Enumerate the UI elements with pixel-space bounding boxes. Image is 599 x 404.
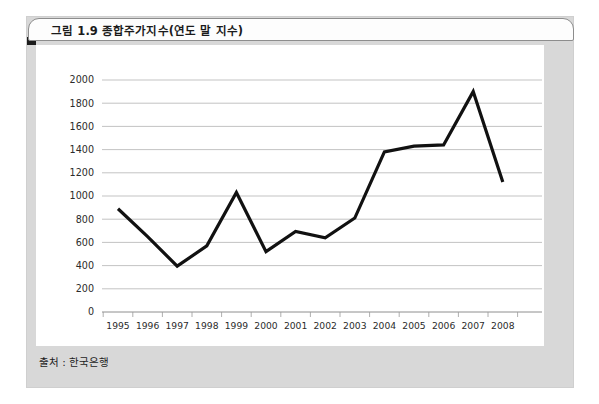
y-tick-label: 1000 xyxy=(70,190,94,201)
y-axis-tick-labels: 0200400600800100012001400160018002000 xyxy=(70,74,94,317)
y-tick-label: 1200 xyxy=(70,167,94,178)
y-tick-label: 0 xyxy=(88,306,94,317)
y-tick-label: 1600 xyxy=(70,121,94,132)
gridline-group xyxy=(102,80,542,312)
y-tick-label: 400 xyxy=(76,260,94,271)
x-tick-label: 1998 xyxy=(195,320,219,331)
x-tick-label: 1999 xyxy=(225,320,249,331)
x-tick-label: 2003 xyxy=(343,320,367,331)
x-tick-label: 1996 xyxy=(136,320,160,331)
x-tick-label: 2001 xyxy=(284,320,307,331)
line-chart: 0200400600800100012001400160018002000 19… xyxy=(36,45,544,346)
y-tick-label: 600 xyxy=(76,237,94,248)
y-tick-label: 800 xyxy=(76,214,94,225)
figure-page: 그림 1.9 종합주가지수(연도 말 지수) 02004006008001000… xyxy=(0,0,599,404)
y-tick-label: 2000 xyxy=(70,74,94,85)
x-tick-label: 2004 xyxy=(373,320,397,331)
figure-title: 그림 1.9 종합주가지수(연도 말 지수) xyxy=(51,22,243,38)
y-tick-label: 1400 xyxy=(70,144,94,155)
x-tick-label: 2008 xyxy=(491,320,515,331)
x-tick-label: 2002 xyxy=(314,320,337,331)
x-axis-tick-marks xyxy=(103,312,517,317)
y-tick-label: 1800 xyxy=(70,98,94,109)
x-tick-label: 2007 xyxy=(462,320,486,331)
x-tick-label: 1995 xyxy=(106,320,130,331)
source-band: 출처 : 한국은행 xyxy=(27,346,573,387)
x-tick-label: 2006 xyxy=(432,320,456,331)
figure-title-bar: 그림 1.9 종합주가지수(연도 말 지수) xyxy=(28,18,574,41)
data-series-line xyxy=(118,92,503,267)
x-axis-tick-labels: 1995199619971998199920002001200220032004… xyxy=(106,320,514,331)
x-tick-label: 2005 xyxy=(402,320,426,331)
y-tick-label: 200 xyxy=(76,283,94,294)
source-caption: 출처 : 한국은행 xyxy=(39,354,109,369)
x-tick-label: 1997 xyxy=(166,320,190,331)
x-tick-label: 2000 xyxy=(254,320,278,331)
